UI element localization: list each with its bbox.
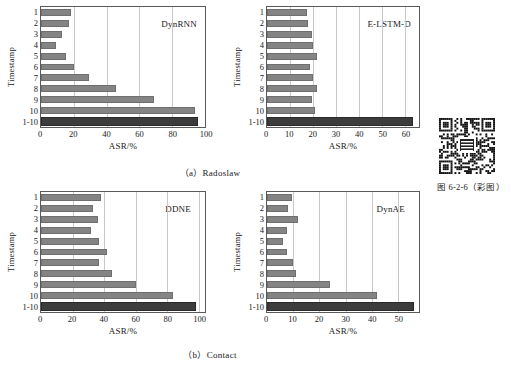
bar bbox=[41, 270, 112, 277]
bar-total bbox=[267, 117, 413, 126]
bar bbox=[41, 20, 69, 27]
x-tick-label: 50 bbox=[378, 130, 387, 139]
x-axis-label-dynrnn: ASR/% bbox=[40, 141, 206, 151]
y-tick-label: 8 bbox=[34, 270, 38, 279]
bar bbox=[267, 42, 313, 49]
qr-block: 图 6-2-6（彩图） bbox=[437, 118, 497, 192]
y-tick-label: 2 bbox=[34, 18, 38, 27]
gridline bbox=[205, 7, 206, 127]
x-tick-label: 30 bbox=[341, 315, 350, 324]
y-tick-label: 7 bbox=[260, 74, 264, 83]
bar bbox=[267, 9, 307, 16]
x-tick-label: 80 bbox=[163, 315, 172, 324]
y-tick-label: 4 bbox=[34, 41, 38, 50]
x-tick-label: 30 bbox=[332, 130, 341, 139]
figure-area: Timestamp 123456789101-10 DynRNN 0204060… bbox=[0, 0, 420, 371]
x-tick-label: 40 bbox=[102, 130, 111, 139]
subcaption-radoslaw: （a）Radoslaw bbox=[0, 166, 420, 179]
y-tick-label: 6 bbox=[260, 248, 264, 257]
x-tick-label: 40 bbox=[100, 315, 109, 324]
bar bbox=[267, 53, 317, 60]
y-tick-label: 2 bbox=[34, 203, 38, 212]
chart-panel-e-lstm-d: Timestamp 123456789101-10 E-LSTM-D 01020… bbox=[228, 6, 424, 166]
plot-area-e-lstm-d: E-LSTM-D bbox=[266, 6, 420, 128]
bar bbox=[267, 281, 330, 288]
x-axis-label-dynae: ASR/% bbox=[266, 326, 420, 336]
y-tick-label: 10 bbox=[30, 292, 39, 301]
bar bbox=[41, 259, 99, 266]
x-tick-label: 50 bbox=[395, 315, 404, 324]
bar bbox=[267, 216, 298, 223]
bar bbox=[267, 259, 293, 266]
y-axis-ticks-ddne: 123456789101-10 bbox=[16, 191, 40, 313]
x-tick-label: 10 bbox=[285, 130, 294, 139]
x-tick-label: 100 bbox=[200, 130, 213, 139]
bar bbox=[267, 85, 317, 92]
x-tick-label: 20 bbox=[69, 130, 78, 139]
y-tick-label: 7 bbox=[34, 74, 38, 83]
bar bbox=[267, 270, 296, 277]
bar bbox=[41, 227, 91, 234]
y-tick-label: 3 bbox=[34, 29, 38, 38]
y-tick-label: 1 bbox=[34, 7, 38, 16]
panel-row-radoslaw: Timestamp 123456789101-10 DynRNN 0204060… bbox=[0, 6, 420, 166]
bar bbox=[267, 205, 288, 212]
bar bbox=[41, 281, 136, 288]
bar bbox=[41, 205, 93, 212]
y-axis-label-text: Timestamp bbox=[232, 232, 242, 272]
y-tick-label: 5 bbox=[260, 52, 264, 61]
x-axis-ticks-ddne: 020406080100 bbox=[40, 314, 206, 326]
bar bbox=[41, 238, 99, 245]
plot-area-dynrnn: DynRNN bbox=[40, 6, 206, 128]
y-tick-label: 1 bbox=[34, 192, 38, 201]
y-tick-label: 1-10 bbox=[248, 303, 264, 312]
y-tick-label: 9 bbox=[34, 281, 38, 290]
panel-row-contact: Timestamp 123456789101-10 DDNE 020406080… bbox=[0, 191, 420, 351]
series-title-dynrnn: DynRNN bbox=[161, 19, 197, 29]
plot-area-dynae: DynAE bbox=[266, 191, 420, 313]
y-tick-label: 9 bbox=[260, 96, 264, 105]
y-tick-label: 7 bbox=[260, 259, 264, 268]
bar bbox=[267, 107, 315, 114]
chart-panel-dynae: Timestamp 123456789101-10 DynAE 01020304… bbox=[228, 191, 424, 351]
x-tick-label: 20 bbox=[315, 315, 324, 324]
bar bbox=[41, 53, 66, 60]
series-title-ddne: DDNE bbox=[165, 204, 191, 214]
bar bbox=[41, 249, 107, 256]
y-tick-label: 5 bbox=[260, 237, 264, 246]
bar bbox=[267, 292, 377, 299]
gridline bbox=[359, 7, 360, 127]
y-tick-label: 4 bbox=[260, 226, 264, 235]
x-tick-label: 0 bbox=[38, 130, 42, 139]
bar bbox=[267, 96, 312, 103]
bar bbox=[41, 194, 101, 201]
x-tick-label: 40 bbox=[355, 130, 364, 139]
y-tick-label: 8 bbox=[260, 270, 264, 279]
bar-total bbox=[267, 302, 414, 311]
gridline bbox=[382, 7, 383, 127]
x-axis-ticks-dynae: 01020304050 bbox=[266, 314, 420, 326]
bar bbox=[267, 64, 310, 71]
bar bbox=[41, 64, 74, 71]
bar bbox=[267, 238, 283, 245]
gridline bbox=[199, 192, 200, 312]
qr-code-image bbox=[439, 118, 495, 174]
bar bbox=[267, 227, 287, 234]
x-tick-label: 0 bbox=[38, 315, 42, 324]
y-axis-ticks-dynrnn: 123456789101-10 bbox=[16, 6, 40, 128]
y-tick-label: 9 bbox=[34, 96, 38, 105]
bar bbox=[41, 216, 98, 223]
y-tick-label: 9 bbox=[260, 281, 264, 290]
plot-area-ddne: DDNE bbox=[40, 191, 206, 313]
bar bbox=[41, 9, 71, 16]
subcaption-contact: （b）Contact bbox=[0, 348, 420, 361]
y-tick-label: 6 bbox=[34, 248, 38, 257]
gridline bbox=[398, 192, 399, 312]
y-axis-ticks-e-lstm-d: 123456789101-10 bbox=[242, 6, 266, 128]
bar bbox=[267, 194, 292, 201]
y-axis-ticks-dynae: 123456789101-10 bbox=[242, 191, 266, 313]
x-axis-label-ddne: ASR/% bbox=[40, 326, 206, 336]
y-tick-label: 1-10 bbox=[22, 118, 38, 127]
y-tick-label: 10 bbox=[256, 292, 265, 301]
x-tick-label: 60 bbox=[135, 130, 144, 139]
